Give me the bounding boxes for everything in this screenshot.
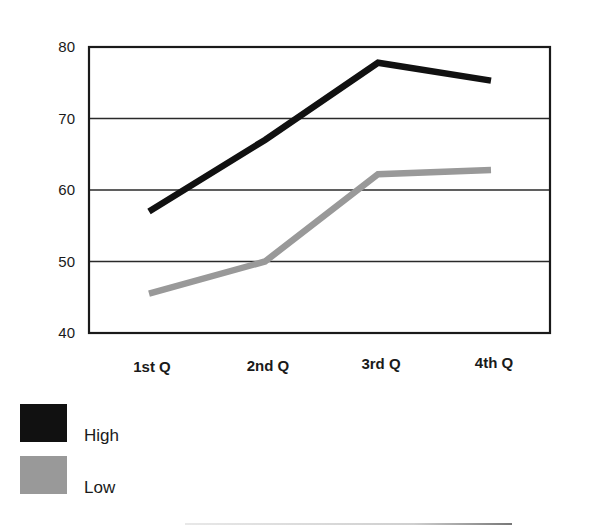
y-tick-label: 50 (58, 253, 75, 270)
series-line-low (149, 170, 491, 294)
line-chart: 4050607080 1st Q2nd Q3rd Q4th Q (0, 0, 589, 527)
x-tick-label: 3rd Q (361, 355, 401, 372)
y-tick-label: 70 (58, 110, 75, 127)
data-series (149, 63, 491, 294)
legend-label-low: Low (84, 478, 115, 498)
legend-swatch-low (20, 456, 67, 494)
bottom-divider (185, 523, 512, 525)
x-tick-label: 1st Q (133, 358, 171, 375)
legend-label-high: High (84, 426, 119, 446)
x-tick-label: 2nd Q (247, 357, 290, 374)
x-axis-ticks: 1st Q2nd Q3rd Q4th Q (133, 354, 513, 376)
gridlines (89, 119, 550, 262)
y-tick-label: 80 (58, 38, 75, 55)
x-tick-label: 4th Q (475, 354, 514, 371)
y-axis-ticks: 4050607080 (58, 38, 75, 341)
y-tick-label: 40 (58, 324, 75, 341)
series-line-high (149, 63, 491, 212)
legend-swatch-high (20, 404, 67, 442)
y-tick-label: 60 (58, 181, 75, 198)
